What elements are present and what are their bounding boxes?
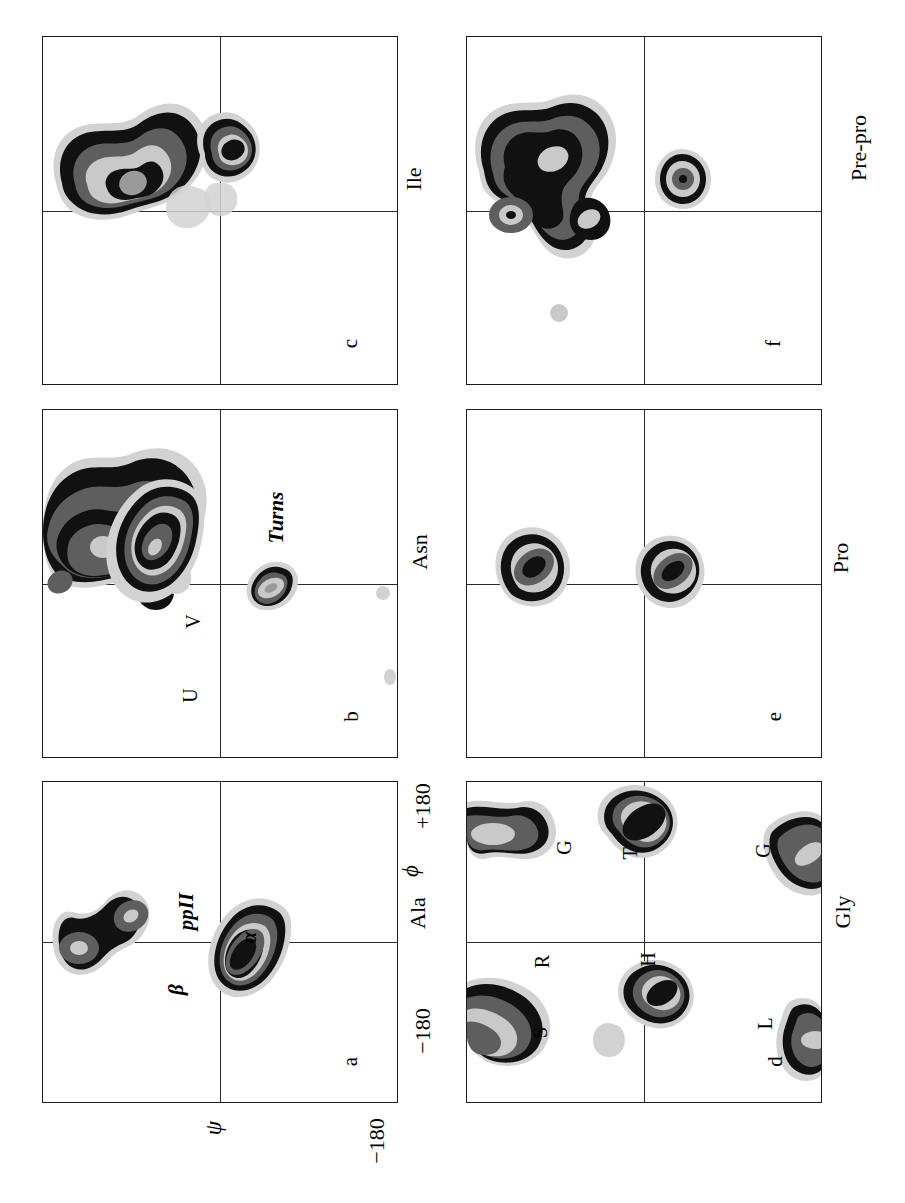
panel-a-contours — [43, 782, 397, 1102]
contour-alpha-prepro — [655, 149, 711, 209]
contour-alpha-ala — [208, 899, 291, 998]
panel-f-contours — [467, 37, 821, 384]
contour-faint-spot-2 — [384, 669, 396, 685]
panel-d-gly: d S R H T G G L — [466, 781, 822, 1103]
contour-alpha-pro — [635, 536, 704, 609]
contour-h-gly — [593, 960, 694, 1057]
panel-c-ile: c — [42, 36, 398, 385]
contour-ppii-pro — [495, 527, 570, 606]
contour-turns-asn — [247, 562, 298, 611]
panel-b-asn: b U V Turns — [42, 409, 398, 758]
panel-c-contours — [43, 37, 397, 384]
panel-e-pro: e — [466, 409, 822, 758]
figure-canvas: c — [0, 0, 905, 1203]
panel-b-contours — [43, 410, 397, 757]
contour-l-gly — [776, 998, 821, 1081]
panel-e-contours — [467, 410, 821, 757]
panel-f-pre-pro: f — [466, 36, 822, 385]
contour-faint-dot — [550, 304, 568, 322]
panel-d-contours — [467, 782, 821, 1102]
contour-g-upper-gly — [467, 801, 556, 859]
contour-faint-spot-1 — [376, 586, 390, 600]
panel-a-ala: a β ppII α — [42, 781, 398, 1103]
contour-beta-ppii-ala — [53, 890, 154, 974]
contour-beta-zeta-prepro — [475, 94, 616, 258]
contour-s-r-gly — [467, 978, 550, 1066]
